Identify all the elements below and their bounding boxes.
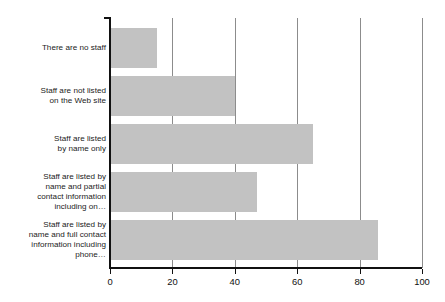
x-tick-label: 0: [90, 276, 130, 287]
x-tick-80: [360, 269, 361, 274]
gridline-100: [422, 18, 423, 268]
x-tick-label: 80: [340, 276, 380, 287]
category-label: Staff are not listed on the Web site: [0, 86, 106, 106]
category-label: Staff are listed by name only: [0, 134, 106, 154]
x-tick-label: 100: [402, 276, 442, 287]
x-tick-label: 20: [152, 276, 192, 287]
y-axis-top-tick: [104, 17, 110, 19]
x-tick-label: 60: [277, 276, 317, 287]
category-label: Staff are listed by name and partial con…: [0, 172, 106, 213]
bar: [110, 220, 378, 260]
x-tick-label: 40: [215, 276, 255, 287]
bar: [110, 28, 157, 68]
bar: [110, 124, 313, 164]
x-tick-20: [172, 269, 173, 274]
bar-chart: There are no staffStaff are not listed o…: [0, 0, 445, 302]
category-axis-labels: There are no staffStaff are not listed o…: [0, 24, 106, 268]
x-tick-100: [422, 269, 423, 274]
x-tick-60: [297, 269, 298, 274]
plot-area: [110, 18, 422, 268]
bar: [110, 76, 235, 116]
y-axis-line: [109, 17, 111, 269]
x-axis-line: [109, 267, 422, 269]
bar: [110, 172, 257, 212]
x-tick-40: [235, 269, 236, 274]
x-tick-0: [110, 269, 111, 274]
category-label: Staff are listed by name and full contac…: [0, 220, 106, 261]
category-label: There are no staff: [0, 43, 106, 53]
